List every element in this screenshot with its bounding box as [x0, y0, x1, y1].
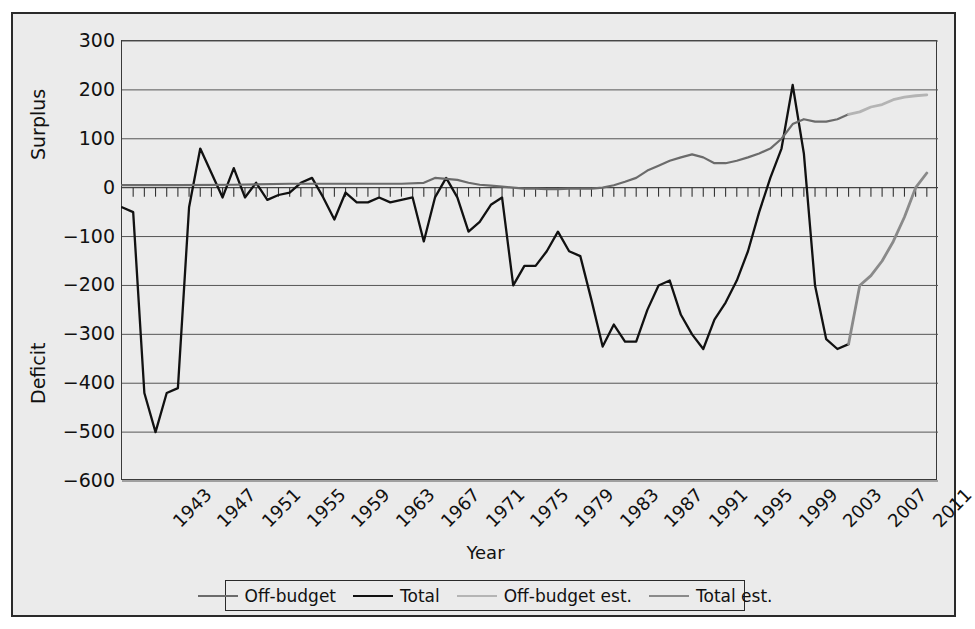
x-axis-title: Year	[13, 542, 958, 563]
legend-item[interactable]: Off-budget	[198, 586, 337, 606]
x-tick-label: 1963	[392, 484, 439, 531]
legend-swatch	[353, 595, 393, 597]
legend-swatch	[457, 595, 497, 597]
y-tick-label: −600	[63, 469, 115, 491]
legend-label: Total est.	[696, 586, 773, 606]
x-tick-label: 1979	[570, 484, 617, 531]
y-tick-label: −400	[63, 371, 115, 393]
legend-label: Off-budget	[245, 586, 337, 606]
x-tick-label: 1983	[615, 484, 662, 531]
y-axis-tick-labels: 3002001000−100−200−300−400−500−600	[41, 40, 115, 480]
y-tick-label: −100	[63, 225, 115, 247]
x-axis-tick-labels: 1943194719511955195919631967197119751979…	[121, 484, 937, 544]
series-line-off-budget-est	[849, 95, 927, 115]
x-tick-label: 1943	[168, 484, 215, 531]
y-tick-label: 100	[79, 127, 115, 149]
legend-item[interactable]: Total	[353, 586, 440, 606]
x-tick-label: 1971	[481, 484, 528, 531]
x-tick-label: 1967	[436, 484, 483, 531]
legend-item[interactable]: Total est.	[649, 586, 773, 606]
legend-swatch	[649, 595, 689, 597]
x-tick-label: 1975	[526, 484, 573, 531]
x-tick-label: 1987	[660, 484, 707, 531]
x-tick-label: 2007	[883, 484, 930, 531]
y-tick-label: 300	[79, 29, 115, 51]
x-tick-label: 1951	[257, 484, 304, 531]
legend-swatch	[198, 595, 238, 597]
chart-canvas	[121, 40, 939, 482]
x-tick-label: 1999	[794, 484, 841, 531]
series-line-total	[122, 85, 849, 432]
x-tick-label: 1959	[347, 484, 394, 531]
y-tick-label: −200	[63, 273, 115, 295]
y-tick-label: −500	[63, 420, 115, 442]
legend-label: Total	[400, 586, 440, 606]
plot-area	[121, 40, 937, 480]
y-tick-label: 0	[103, 176, 115, 198]
chart-legend: Off-budgetTotalOff-budget est.Total est.	[225, 580, 745, 611]
legend-item[interactable]: Off-budget est.	[457, 586, 632, 606]
x-tick-label: 1947	[213, 484, 260, 531]
x-tick-label: 2003	[839, 484, 886, 531]
x-tick-label: 1995	[749, 484, 796, 531]
x-tick-label: 1955	[302, 484, 349, 531]
figure-frame: Surplus Deficit 3002001000−100−200−300−4…	[11, 12, 956, 617]
top-cropped-text-strip	[0, 0, 969, 11]
legend-label: Off-budget est.	[504, 586, 632, 606]
y-tick-label: 200	[79, 78, 115, 100]
y-tick-label: −300	[63, 322, 115, 344]
series-line-total-est	[849, 173, 927, 344]
x-tick-label: 2011	[928, 484, 975, 531]
x-tick-label: 1991	[704, 484, 751, 531]
